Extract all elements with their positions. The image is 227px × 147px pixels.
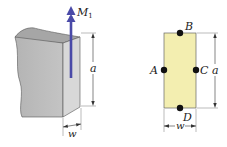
- left-width-label: w: [68, 128, 77, 139]
- label-A: A: [149, 64, 158, 77]
- label-C: C: [200, 64, 209, 77]
- point-C: [193, 67, 199, 73]
- moment-arrowhead-upper: [67, 6, 76, 15]
- left-height-label: a: [90, 62, 97, 75]
- right-height-label: a: [212, 64, 219, 77]
- moment-label: M1: [76, 6, 93, 20]
- diagram-canvas: M1 a w B A C D a: [0, 0, 227, 147]
- point-B: [177, 30, 183, 36]
- cross-section: [164, 33, 196, 108]
- right-width-label: w: [176, 120, 185, 131]
- moment-arrowhead-lower: [67, 14, 76, 22]
- block-front-face: [15, 37, 63, 117]
- point-A: [161, 67, 167, 73]
- label-B: B: [184, 20, 193, 33]
